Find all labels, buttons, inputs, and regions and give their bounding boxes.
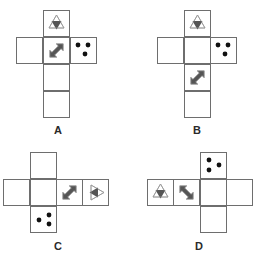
net-face-arrow — [184, 64, 211, 91]
net-face-blank — [30, 179, 57, 206]
option-label: B — [187, 124, 207, 136]
net-face-blank — [43, 91, 70, 118]
net-face-blank — [43, 64, 70, 91]
net-option-b: B — [0, 0, 258, 255]
net-face-blank — [226, 179, 253, 206]
net-option-c: C — [0, 0, 258, 255]
net-face-dots — [200, 152, 227, 179]
net-face-dots — [210, 37, 237, 64]
net-face-dots — [30, 206, 57, 233]
net-face-blank — [157, 37, 184, 64]
net-face-blank — [30, 152, 57, 179]
net-option-a: A — [0, 0, 258, 255]
net-face-triangle-pair — [43, 10, 70, 37]
net-face-arrow — [173, 179, 200, 206]
net-face-blank — [16, 37, 43, 64]
net-face-blank — [184, 37, 211, 64]
net-face-blank — [184, 91, 211, 118]
option-label: A — [48, 124, 68, 136]
net-face-blank — [200, 206, 227, 233]
net-face-arrow — [43, 37, 70, 64]
net-option-d: D — [0, 0, 258, 255]
net-face-dots — [70, 37, 97, 64]
net-face-triangle-pair — [82, 179, 109, 206]
option-label: C — [48, 240, 68, 252]
net-face-arrow — [56, 179, 83, 206]
net-face-triangle-pair — [184, 10, 211, 37]
option-label: D — [189, 240, 209, 252]
net-face-blank — [200, 179, 227, 206]
net-face-triangle-pair — [147, 179, 174, 206]
net-face-blank — [3, 179, 30, 206]
